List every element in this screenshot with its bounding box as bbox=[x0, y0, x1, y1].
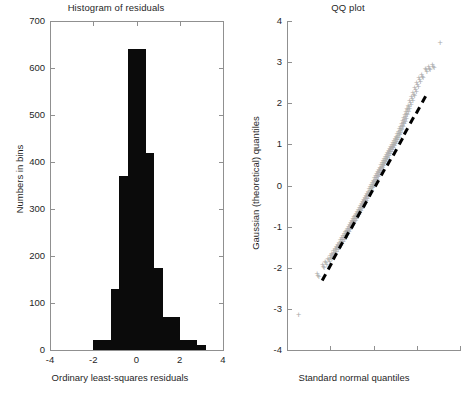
histogram-bar bbox=[197, 345, 206, 350]
histogram-y-tick-right bbox=[219, 115, 223, 116]
qq-y-tick-label: -1 bbox=[251, 221, 282, 232]
qq-y-tick-label: 1 bbox=[251, 138, 282, 149]
histogram-x-tick-top bbox=[180, 22, 181, 26]
qq-y-tick bbox=[288, 309, 292, 310]
qq-y-tick-label: 4 bbox=[251, 15, 282, 26]
histogram-y-tick-right bbox=[219, 68, 223, 69]
qq-x-tick bbox=[460, 346, 461, 350]
histogram-y-tick-label: 400 bbox=[8, 156, 45, 167]
histogram-y-tick-right bbox=[219, 350, 223, 351]
histogram-x-tick-label: 0 bbox=[117, 354, 157, 365]
histogram-y-tick bbox=[51, 115, 55, 116]
histogram-right-spine bbox=[223, 21, 224, 351]
histogram-y-tick-label: 300 bbox=[8, 203, 45, 214]
qq-y-tick-label: -4 bbox=[251, 344, 282, 355]
qq-y-tick bbox=[288, 268, 292, 269]
qq-y-tick bbox=[288, 144, 292, 145]
histogram-y-tick bbox=[51, 256, 55, 257]
qq-reference-line-dash bbox=[421, 96, 427, 103]
qq-panel: QQ plot Standard normal quantiles Gaussi… bbox=[232, 0, 464, 397]
histogram-x-tick-top bbox=[93, 22, 94, 26]
qq-x-axis-label: Standard normal quantiles bbox=[254, 372, 454, 383]
histogram-x-tick-label: -2 bbox=[73, 354, 113, 365]
qq-x-tick bbox=[374, 346, 375, 350]
histogram-x-tick-label: 2 bbox=[160, 354, 200, 365]
qq-y-tick bbox=[288, 103, 292, 104]
qq-y-tick bbox=[288, 21, 292, 22]
histogram-x-tick-top bbox=[137, 22, 138, 26]
qq-x-axis-spine bbox=[287, 350, 461, 351]
histogram-x-tick bbox=[50, 346, 51, 350]
histogram-title: Histogram of residuals bbox=[0, 2, 232, 13]
histogram-y-tick-right bbox=[219, 303, 223, 304]
qq-y-tick-label: -2 bbox=[251, 262, 282, 273]
histogram-y-tick-right bbox=[219, 209, 223, 210]
histogram-x-tick-top bbox=[223, 22, 224, 26]
qq-y-tick bbox=[288, 62, 292, 63]
qq-data-point: + bbox=[431, 64, 436, 73]
qq-data-point: + bbox=[438, 39, 443, 48]
histogram-bar bbox=[93, 340, 102, 350]
histogram-y-tick-label: 700 bbox=[8, 15, 45, 26]
qq-y-tick-label: 3 bbox=[251, 56, 282, 67]
qq-y-tick-label: 2 bbox=[251, 97, 282, 108]
qq-y-tick bbox=[288, 186, 292, 187]
histogram-x-tick-top bbox=[50, 22, 51, 26]
histogram-y-axis-spine bbox=[50, 21, 51, 351]
histogram-y-tick-label: 600 bbox=[8, 62, 45, 73]
qq-y-tick-label: 0 bbox=[251, 180, 282, 191]
histogram-y-tick bbox=[51, 303, 55, 304]
qq-reference-line-dash bbox=[415, 106, 421, 113]
histogram-y-tick bbox=[51, 209, 55, 210]
qq-x-tick bbox=[330, 346, 331, 350]
histogram-bar bbox=[128, 49, 137, 350]
histogram-bar bbox=[188, 340, 197, 350]
histogram-bar bbox=[102, 340, 111, 350]
histogram-x-tick-label: -4 bbox=[30, 354, 70, 365]
qq-x-tick bbox=[287, 346, 288, 350]
qq-y-tick bbox=[288, 350, 292, 351]
qq-y-tick bbox=[288, 227, 292, 228]
figure-canvas: Histogram of residuals Ordinary least-sq… bbox=[0, 0, 464, 397]
histogram-y-tick bbox=[51, 162, 55, 163]
histogram-panel: Histogram of residuals Ordinary least-sq… bbox=[0, 0, 232, 397]
qq-reference-line-dash bbox=[409, 117, 415, 124]
histogram-bar bbox=[171, 317, 180, 350]
histogram-x-tick bbox=[223, 346, 224, 350]
histogram-x-axis-label: Ordinary least-squares residuals bbox=[20, 372, 220, 383]
qq-title: QQ plot bbox=[232, 2, 464, 13]
histogram-bar bbox=[145, 153, 154, 350]
histogram-bar bbox=[162, 317, 171, 350]
qq-data-point: + bbox=[296, 311, 301, 320]
histogram-y-tick-right bbox=[219, 256, 223, 257]
histogram-y-tick-label: 500 bbox=[8, 109, 45, 120]
histogram-y-tick bbox=[51, 350, 55, 351]
histogram-y-tick-right bbox=[219, 162, 223, 163]
histogram-bar bbox=[119, 176, 128, 350]
histogram-y-tick-label: 200 bbox=[8, 250, 45, 261]
histogram-x-axis-spine bbox=[50, 350, 224, 351]
qq-y-tick-label: -3 bbox=[251, 303, 282, 314]
histogram-y-tick bbox=[51, 68, 55, 69]
histogram-y-axis-label: Numbers in bins bbox=[14, 124, 25, 234]
qq-x-tick bbox=[417, 346, 418, 350]
histogram-y-tick-label: 100 bbox=[8, 297, 45, 308]
histogram-y-tick bbox=[51, 21, 55, 22]
